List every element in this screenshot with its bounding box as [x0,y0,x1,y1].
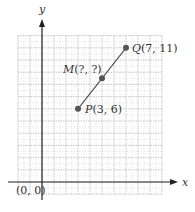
point-m-label: M(?, ?) [62,63,102,76]
x-axis-label: x [182,176,189,189]
origin-label: (0, 0) [16,184,46,197]
point-q [123,45,129,51]
midpoint-diagram: x y (0, 0) P(3, 6) M(?, ?) Q(7, 11) [0,0,195,212]
coordinate-plane: x y (0, 0) P(3, 6) M(?, ?) Q(7, 11) [0,0,195,212]
point-p-label: P(3, 6) [84,103,122,116]
y-axis-label: y [38,3,46,16]
x-axis-arrow-icon [170,179,178,185]
point-p [75,106,81,112]
point-q-label: Q(7, 11) [132,42,178,55]
y-axis-arrow-icon [39,19,45,27]
